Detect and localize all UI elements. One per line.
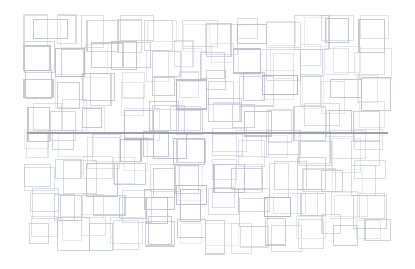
mosaic-pattern — [0, 0, 415, 269]
artwork-canvas: Abstract Grid Mosaic Dense plaid texture… — [0, 0, 415, 269]
